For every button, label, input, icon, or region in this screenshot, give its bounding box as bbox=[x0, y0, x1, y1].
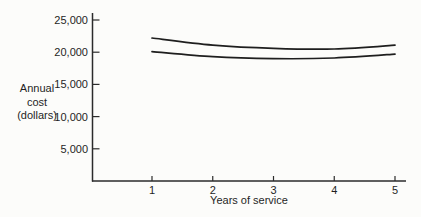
y-tick-label: 15,000 bbox=[40, 78, 88, 90]
x-tick-label: 5 bbox=[392, 184, 398, 196]
y-tick-label: 25,000 bbox=[40, 14, 88, 26]
series-upper-cost-curve bbox=[152, 38, 395, 49]
y-tick-label: 5,000 bbox=[40, 143, 88, 155]
y-tick-label: 10,000 bbox=[40, 111, 88, 123]
x-tick-label: 2 bbox=[210, 184, 216, 196]
annual-cost-line-chart: Annualcost(dollars) Years of service 5,0… bbox=[0, 0, 421, 217]
y-axis-title-line: cost bbox=[8, 96, 66, 110]
x-tick-label: 3 bbox=[270, 184, 276, 196]
y-tick-label: 20,000 bbox=[40, 46, 88, 58]
x-tick-label: 1 bbox=[149, 184, 155, 196]
series-lower-cost-curve bbox=[152, 52, 395, 59]
x-tick-label: 4 bbox=[331, 184, 337, 196]
